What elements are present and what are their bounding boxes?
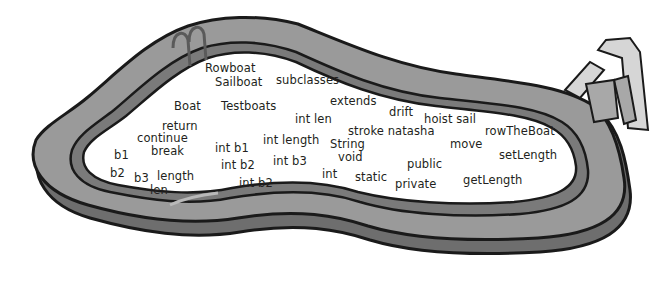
code-word-magnet[interactable]: len <box>150 185 168 197</box>
code-word-magnet[interactable]: subclasses <box>276 75 339 87</box>
code-word-magnet[interactable]: private <box>395 179 436 191</box>
code-word-magnet[interactable]: void <box>338 152 363 164</box>
code-word-magnet[interactable]: length <box>157 171 194 183</box>
code-word-magnet[interactable]: Boat <box>174 101 201 113</box>
code-word-magnet[interactable]: Testboats <box>221 101 276 113</box>
swimming-pool-illustration <box>0 0 652 284</box>
code-word-magnet[interactable]: Rowboat <box>205 63 256 75</box>
code-word-magnet[interactable]: int b1 <box>215 143 249 155</box>
code-word-magnet[interactable]: int length <box>263 135 319 147</box>
code-word-magnet[interactable]: break <box>151 146 184 158</box>
code-word-magnet[interactable]: drift <box>389 107 413 119</box>
code-word-magnet[interactable]: continue <box>137 133 188 145</box>
code-word-magnet[interactable]: getLength <box>463 175 522 187</box>
code-word-magnet[interactable]: b3 <box>134 173 149 185</box>
code-word-magnet[interactable]: stroke natasha <box>348 126 435 138</box>
code-word-magnet[interactable]: move <box>450 139 483 151</box>
code-word-magnet[interactable]: b1 <box>114 150 129 162</box>
code-word-magnet[interactable]: b2 <box>110 168 125 180</box>
code-word-magnet[interactable]: int b2 <box>221 160 255 172</box>
code-word-magnet[interactable]: int <box>322 169 337 181</box>
code-word-magnet[interactable]: static <box>355 172 387 184</box>
pool-scene: RowboatSailboatsubclassesBoatTestboatsex… <box>0 0 652 284</box>
code-word-magnet[interactable]: int b2 <box>239 178 273 190</box>
code-word-magnet[interactable]: Sailboat <box>215 77 262 89</box>
code-word-magnet[interactable]: int len <box>295 114 332 126</box>
code-word-magnet[interactable]: String <box>330 139 365 151</box>
code-word-magnet[interactable]: extends <box>330 96 377 108</box>
code-word-magnet[interactable]: setLength <box>499 150 557 162</box>
code-word-magnet[interactable]: public <box>407 159 442 171</box>
code-word-magnet[interactable]: rowTheBoat <box>485 126 555 138</box>
code-word-magnet[interactable]: int b3 <box>273 156 307 168</box>
